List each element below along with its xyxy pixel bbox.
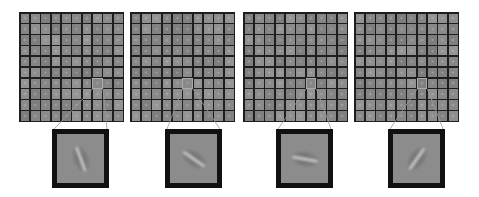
filter-cell	[183, 79, 192, 88]
filter-cell	[418, 79, 427, 88]
filter-cell	[93, 79, 102, 88]
filter-cell	[307, 79, 316, 88]
connector-lines	[0, 0, 479, 197]
